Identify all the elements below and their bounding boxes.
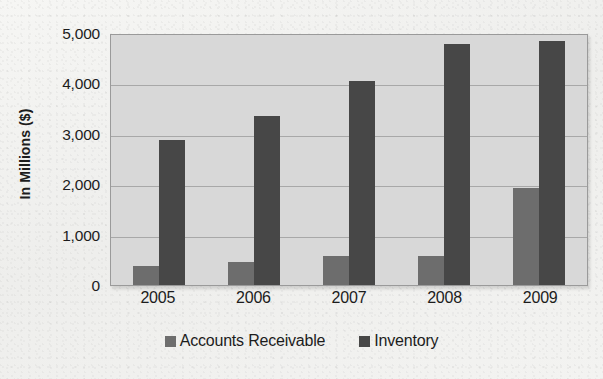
bar-2006-inventory[interactable]: [254, 116, 280, 285]
y-tick-label: 3,000: [8, 126, 100, 144]
bar-chart-figure: In Millions ($) 01,0002,0003,0004,0005,0…: [0, 0, 603, 379]
x-axis-tick-labels: 20052006200720082009: [110, 289, 588, 307]
x-tick-label-2006: 2006: [216, 289, 290, 307]
x-tick-label-2007: 2007: [312, 289, 386, 307]
legend-item-accounts-receivable[interactable]: Accounts Receivable: [165, 332, 326, 350]
y-tick-label: 5,000: [8, 25, 100, 43]
bar-group-2006: [228, 35, 280, 285]
plot-area: [110, 34, 588, 286]
legend-item-inventory[interactable]: Inventory: [359, 332, 438, 350]
bar-2005-inventory[interactable]: [159, 140, 185, 285]
bar-2008-inventory[interactable]: [444, 44, 470, 285]
bar-group-2005: [133, 35, 185, 285]
bar-2008-accounts-receivable[interactable]: [418, 256, 444, 285]
y-tick-label: 1,000: [8, 227, 100, 245]
bar-2005-accounts-receivable[interactable]: [133, 266, 159, 285]
bar-2009-inventory[interactable]: [539, 41, 565, 285]
bar-2007-inventory[interactable]: [349, 81, 375, 285]
x-tick-label-2009: 2009: [503, 289, 577, 307]
x-tick-label-2005: 2005: [121, 289, 195, 307]
legend-swatch-icon: [165, 336, 176, 347]
legend-label: Accounts Receivable: [180, 332, 326, 350]
bar-2007-accounts-receivable[interactable]: [323, 256, 349, 285]
y-tick-label: 0: [8, 277, 100, 295]
bar-2006-accounts-receivable[interactable]: [228, 262, 254, 285]
bar-group-2008: [418, 35, 470, 285]
bar-group-2009: [513, 35, 565, 285]
bars-layer: [111, 35, 587, 285]
y-tick-label: 2,000: [8, 176, 100, 194]
bar-group-2007: [323, 35, 375, 285]
legend-swatch-icon: [359, 336, 370, 347]
legend-label: Inventory: [374, 332, 438, 350]
y-tick-label: 4,000: [8, 75, 100, 93]
chart-legend: Accounts ReceivableInventory: [0, 332, 603, 350]
x-tick-label-2008: 2008: [408, 289, 482, 307]
bar-2009-accounts-receivable[interactable]: [513, 188, 539, 285]
y-axis-tick-labels: 01,0002,0003,0004,0005,000: [8, 0, 100, 379]
